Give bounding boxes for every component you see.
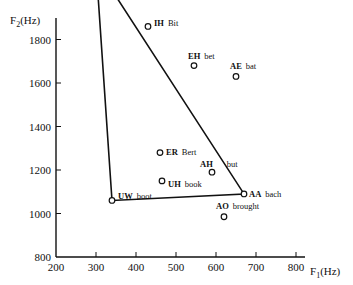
x-tick-label: 500 [168, 261, 185, 273]
y-tick-label: 800 [35, 251, 52, 263]
vowel-point-uw: UWboot [109, 191, 152, 203]
x-tick-label: 400 [128, 261, 145, 273]
vowel-label: ERBert [166, 147, 197, 157]
vowel-marker-icon [157, 150, 163, 156]
x-tick-label: 600 [208, 261, 225, 273]
vowel-label: AEbat [230, 61, 257, 71]
vowel-point-eh: EHbet [188, 51, 215, 69]
vowel-marker-icon [209, 169, 215, 175]
vowel-triangle [96, 0, 244, 200]
vowel-label: UHbook [168, 179, 203, 189]
vowel-point-aa: AAbach [241, 189, 282, 199]
vowel-marker-icon [191, 63, 197, 69]
axes: 2003004005006007008008001000120014001600… [10, 0, 341, 280]
vowel-marker-icon [159, 178, 165, 184]
x-axis-title: F1(Hz) [310, 265, 341, 280]
vowel-label: IHBit [154, 18, 179, 28]
x-tick-label: 300 [88, 261, 105, 273]
y-axis-title: F2(Hz) [10, 14, 41, 29]
vowel-formant-chart: 2003004005006007008008001000120014001600… [0, 0, 353, 285]
vowel-marker-icon [109, 198, 115, 204]
vowel-point-uh: UHbook [159, 178, 202, 189]
x-tick-label: 800 [288, 261, 305, 273]
vowel-label: EHbet [188, 51, 215, 61]
vowel-marker-icon [221, 214, 227, 220]
y-tick-label: 1200 [29, 164, 52, 176]
x-tick-label: 700 [248, 261, 265, 273]
vowel-point-ae: AEbat [230, 61, 257, 79]
y-tick-label: 2000 [29, 0, 52, 2]
vowel-point-ah: AHbut [200, 159, 238, 175]
vowel-marker-icon [145, 24, 151, 30]
y-tick-label: 1000 [29, 208, 52, 220]
vowel-point-ih: IHBit [145, 18, 179, 29]
triangle-outline [96, 0, 244, 200]
vowel-label: AObrought [216, 201, 260, 211]
vowel-point-ao: AObrought [216, 201, 260, 220]
y-tick-label: 1400 [29, 121, 52, 133]
vowel-label: AHbut [200, 159, 238, 169]
vowel-label: AAbach [249, 189, 282, 199]
y-tick-label: 1800 [29, 34, 52, 46]
y-tick-label: 1600 [29, 77, 52, 89]
vowel-point-er: ERBert [157, 147, 197, 157]
vowel-marker-icon [233, 74, 239, 80]
vowel-marker-icon [241, 191, 247, 197]
data-points: IYbeetIHBitEHbetAEbatERBertAHbutUHbookUW… [92, 0, 282, 220]
